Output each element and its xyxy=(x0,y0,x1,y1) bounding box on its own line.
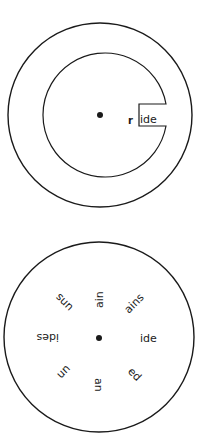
bottom-wheel: ide ed an un ides uns ain ains xyxy=(4,242,194,432)
bottom-center-pivot xyxy=(96,335,102,341)
phonics-wheel-figure: r ide ide ed an un ides uns ain ains xyxy=(0,0,205,443)
ending-ains: ains xyxy=(122,291,147,316)
ending-un: un xyxy=(54,363,73,382)
ending-ed: ed xyxy=(125,365,144,384)
top-center-pivot xyxy=(97,112,103,118)
top-wheel: r ide xyxy=(8,23,192,207)
ending-ides: ides xyxy=(36,331,59,344)
ending-ain: ain xyxy=(93,291,106,308)
window-prefix: r xyxy=(128,115,133,126)
ending-ide: ide xyxy=(140,332,157,345)
ending-an: an xyxy=(92,378,105,392)
window-word: ide xyxy=(140,113,157,126)
ending-uns: uns xyxy=(52,291,75,314)
